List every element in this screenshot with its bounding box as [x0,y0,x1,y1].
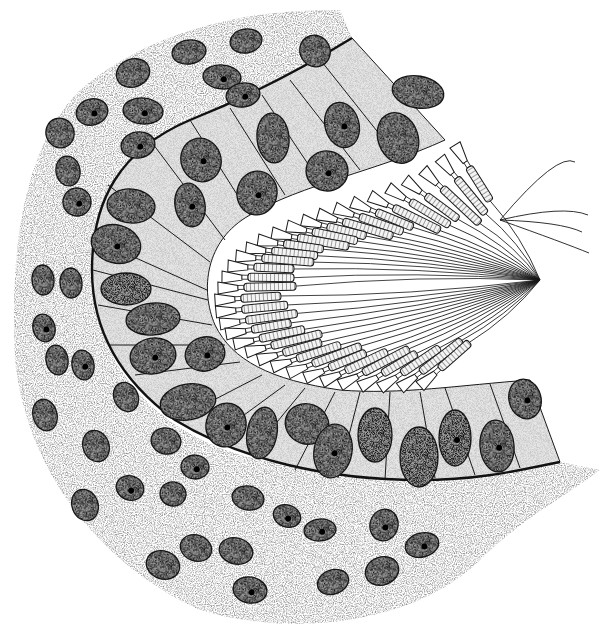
cell-head [215,293,236,306]
banded-midpiece [248,273,294,281]
histology-figure [0,0,609,630]
flagellum [469,280,542,345]
cell-head [222,271,242,283]
free-flagellum [500,220,589,253]
free-flagellum [500,211,588,220]
cell-head [215,304,236,318]
banded-midpiece [254,263,294,273]
cell-head [218,282,238,294]
epithelium-illustration [0,0,609,630]
cell-head [228,260,249,273]
banded-midpiece [241,292,281,302]
flagellated-cell [337,275,543,391]
banded-midpiece [244,282,296,291]
flagellated-cell [319,275,542,388]
epithelial-nucleus [400,427,438,487]
epithelial-nucleus [439,410,471,466]
epithelial-nucleus [358,408,392,462]
epithelial-nucleus [101,273,151,305]
free-flagellum [500,220,582,232]
nucleolus [454,437,460,443]
